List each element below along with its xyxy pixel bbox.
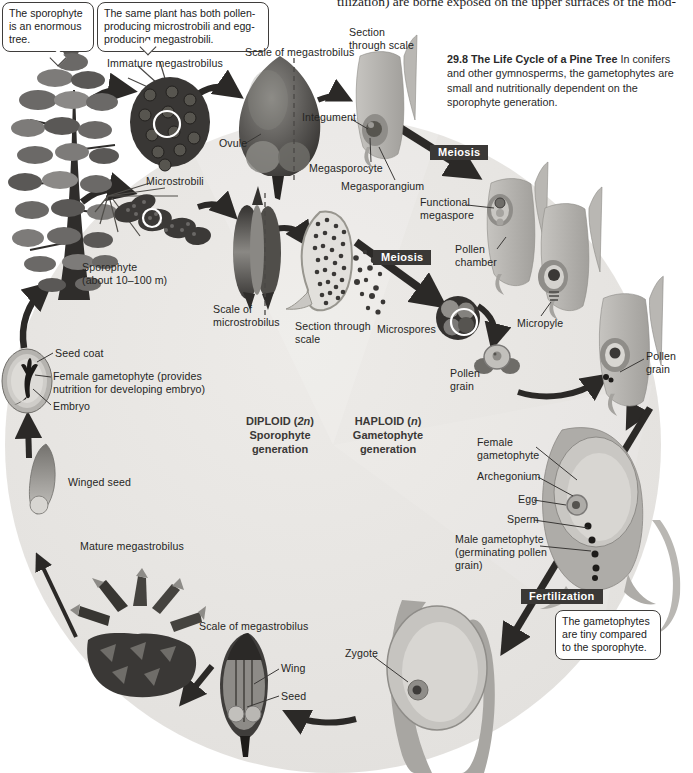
label-ovule: Ovule xyxy=(219,137,247,150)
label-microspores: Microspores xyxy=(377,323,436,336)
figure-caption: 29.8 The Life Cycle of a Pine Tree In co… xyxy=(447,52,690,109)
figure-title: The Life Cycle of a Pine Tree xyxy=(471,53,617,65)
label-megasporocyte: Megasporocyte xyxy=(309,162,383,175)
label-section-through-scale-mid: Section through scale xyxy=(295,320,371,346)
label-scale-of-megastrobilus: Scale of megastrobilus xyxy=(245,46,354,59)
textbook-page: tilization) are borne exposed on the upp… xyxy=(0,0,693,773)
label-zygote: Zygote xyxy=(345,647,378,660)
label-scale-of-microstrobilus: Scale of microstrobilus xyxy=(213,303,280,329)
label-functional-megaspore: Functional megaspore xyxy=(420,196,474,222)
label-sperm: Sperm xyxy=(507,513,539,526)
meiosis-badge: Meiosis xyxy=(373,250,431,265)
label-pollen-chamber: Pollen chamber xyxy=(455,243,497,269)
label-embryo: Embryo xyxy=(53,400,90,413)
label-male-gametophyte: Male gametophyte (germinating pollen gra… xyxy=(455,533,547,572)
callout-sporophyte-tree: The sporophyte is an enormous tree. xyxy=(2,2,94,52)
label-sporophyte: Sporophyte (about 10–100 m) xyxy=(82,261,167,287)
label-seed-coat: Seed coat xyxy=(55,347,104,360)
meiosis-badge: Meiosis xyxy=(430,145,488,160)
label-scale-of-megastrobilus-bottom: Scale of megastrobilus xyxy=(199,620,308,633)
label-immature-megastrobilus: Immature megastrobilus xyxy=(107,57,223,70)
haploid-generation-heading: HAPLOID (n) Gametophyte generation xyxy=(340,415,436,456)
fertilization-badge: Fertilization xyxy=(521,589,603,604)
label-micropyle: Micropyle xyxy=(517,317,563,330)
body-text-fragment: tilization) are borne exposed on the upp… xyxy=(337,0,676,10)
label-mature-megastrobilus: Mature megastrobilus xyxy=(80,540,184,553)
label-wing: Wing xyxy=(281,662,306,675)
callout-same-plant: The same plant has both pollen-producing… xyxy=(97,2,269,52)
label-microstrobili: Microstrobili xyxy=(146,175,204,188)
seed-section-illustration xyxy=(2,349,52,413)
diploid-generation-heading: DIPLOID (2n) Sporophyte generation xyxy=(234,415,326,456)
label-pollen-grain: Pollen grain xyxy=(646,350,676,376)
label-seed: Seed xyxy=(281,690,306,703)
callout-gametophytes-tiny: The gametophytes are tiny compared to th… xyxy=(555,610,661,660)
label-section-through-scale: Section through scale xyxy=(349,26,414,52)
label-archegonium: Archegonium xyxy=(477,470,541,483)
label-female-gametophyte-nutrition: Female gametophyte (provides nutrition f… xyxy=(53,370,205,396)
label-winged-seed: Winged seed xyxy=(68,476,131,489)
label-pollen-grain: Pollen grain xyxy=(450,367,480,393)
label-integument: Integument xyxy=(302,111,356,124)
label-female-gametophyte: Female gametophyte xyxy=(477,436,539,462)
figure-number: 29.8 xyxy=(447,53,468,65)
label-egg: Egg xyxy=(518,493,537,506)
label-megasporangium: Megasporangium xyxy=(341,180,424,193)
